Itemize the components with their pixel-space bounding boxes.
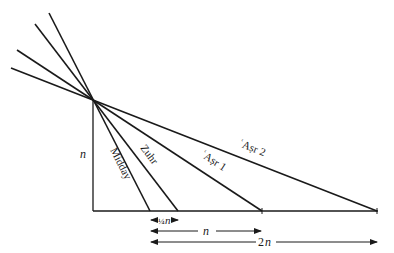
quarter-label-n: n (165, 214, 171, 226)
gnomon-label: n (80, 147, 86, 161)
shadow-diagram: n Midday Zuhr ʿAṣr 1 ʿAṣr 2 ¼ n n 2 n (0, 0, 394, 253)
2n-label-2: 2 (258, 235, 264, 249)
zuhr-ray (35, 24, 178, 211)
asr2-label: ʿAṣr 2 (237, 137, 267, 159)
n-label: n (203, 224, 209, 238)
asr2-ray (11, 68, 377, 211)
diagram-canvas: n Midday Zuhr ʿAṣr 1 ʿAṣr 2 ¼ n n 2 n (0, 0, 394, 253)
2n-label-n: n (265, 235, 271, 249)
asr1-ray (17, 50, 262, 211)
midday-ray (49, 13, 150, 211)
quarter-label-frac: ¼ (158, 216, 165, 226)
midday-label: Midday (108, 145, 134, 181)
